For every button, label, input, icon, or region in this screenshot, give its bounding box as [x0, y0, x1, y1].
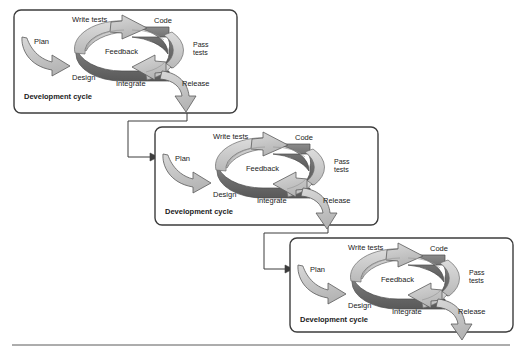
label-pass-tests-line1-3: Pass	[469, 269, 485, 276]
label-integrate-1: Integrate	[116, 79, 146, 88]
label-plan-3: Plan	[310, 265, 325, 274]
label-release-1: Release	[182, 79, 210, 88]
figure-canvas: Plan Write tests Code Pass tests Feedbac…	[0, 0, 522, 356]
label-pass-tests-line2-3: tests	[469, 277, 484, 284]
label-pass-tests-line1-2: Pass	[334, 158, 350, 165]
development-cycle-diagram: Plan Write tests Code Pass tests Feedbac…	[0, 0, 522, 356]
label-plan-1: Plan	[34, 37, 49, 46]
label-code-3: Code	[430, 244, 448, 253]
panel-cycle-2[interactable]: Plan Write tests Code Pass tests Feedbac…	[155, 127, 378, 229]
label-release-2: Release	[323, 196, 351, 205]
label-design-3: Design	[348, 301, 371, 310]
label-feedback-2: Feedback	[246, 164, 279, 173]
label-release-3: Release	[458, 307, 486, 316]
label-pass-tests-line2-1: tests	[193, 49, 208, 56]
label-pass-tests-line1-1: Pass	[193, 41, 209, 48]
label-integrate-2: Integrate	[257, 196, 287, 205]
panel-cycle-3[interactable]: Plan Write tests Code Pass tests Feedbac…	[290, 238, 513, 340]
label-feedback-1: Feedback	[105, 47, 138, 56]
label-code-2: Code	[295, 133, 313, 142]
label-design-2: Design	[213, 190, 236, 199]
panel-caption-1: Development cycle	[24, 92, 92, 101]
label-code-1: Code	[154, 16, 172, 25]
label-plan-2: Plan	[175, 154, 190, 163]
label-write-tests-1: Write tests	[72, 15, 108, 24]
panel-caption-3: Development cycle	[300, 315, 368, 324]
label-integrate-3: Integrate	[392, 307, 422, 316]
label-write-tests-2: Write tests	[213, 132, 249, 141]
label-write-tests-3: Write tests	[348, 243, 384, 252]
label-design-1: Design	[72, 73, 95, 82]
label-pass-tests-line2-2: tests	[334, 166, 349, 173]
label-feedback-3: Feedback	[381, 275, 414, 284]
panel-caption-2: Development cycle	[165, 207, 233, 216]
panel-cycle-1[interactable]: Plan Write tests Code Pass tests Feedbac…	[14, 10, 237, 113]
